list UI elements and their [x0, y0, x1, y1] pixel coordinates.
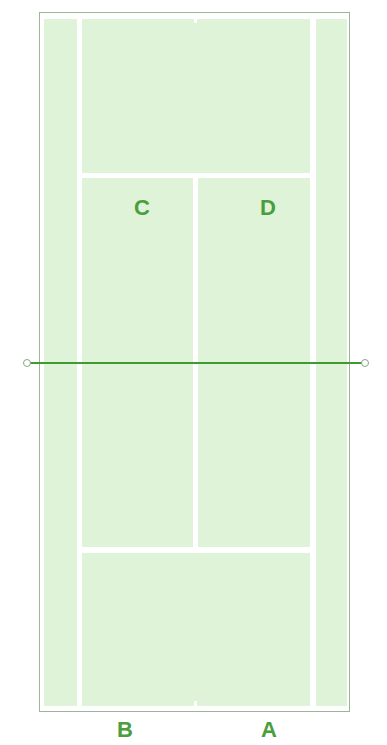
center-mark-bottom	[194, 701, 197, 706]
net-line	[30, 362, 363, 364]
label-b: B	[117, 719, 133, 741]
net-post-left	[23, 359, 31, 367]
service-box-d	[198, 178, 310, 362]
service-box-near-right	[198, 364, 310, 547]
label-a: A	[261, 719, 277, 741]
label-c: C	[134, 197, 150, 219]
center-mark-top	[194, 19, 197, 23]
service-box-near-left	[82, 364, 193, 547]
label-d: D	[260, 197, 276, 219]
near-backcourt	[82, 553, 310, 706]
net-post-right	[361, 359, 369, 367]
far-backcourt	[82, 19, 310, 173]
